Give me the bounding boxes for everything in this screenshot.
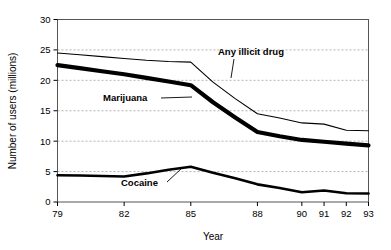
- chart-container: 051015202530 7982858890919293 Any illici…: [0, 0, 391, 250]
- line-chart: 051015202530 7982858890919293 Any illici…: [0, 0, 391, 250]
- y-tick-label-5: 5: [45, 166, 50, 177]
- x-tick-label-90: 90: [297, 208, 308, 219]
- x-tick-label-91: 91: [319, 208, 330, 219]
- x-tick-label-88: 88: [252, 208, 263, 219]
- y-tick-label-25: 25: [40, 44, 51, 55]
- x-tick-label-82: 82: [119, 208, 130, 219]
- marijuana-label: Marijuana: [103, 92, 148, 103]
- y-tick-label-20: 20: [40, 75, 51, 86]
- cocaine-label: Cocaine: [121, 177, 158, 188]
- x-tick-label-93: 93: [363, 208, 374, 219]
- y-axis-title: Number of users (millions): [7, 53, 18, 170]
- any-illicit-drug-label: Any illicit drug: [218, 46, 284, 57]
- y-tick-label-10: 10: [40, 136, 51, 147]
- y-tick-label-0: 0: [45, 196, 50, 207]
- x-axis-title: Year: [203, 231, 224, 242]
- x-tick-label-79: 79: [52, 208, 63, 219]
- x-tick-label-92: 92: [341, 208, 352, 219]
- x-tick-label-85: 85: [185, 208, 196, 219]
- y-tick-label-15: 15: [40, 105, 51, 116]
- y-tick-label-30: 30: [40, 14, 51, 25]
